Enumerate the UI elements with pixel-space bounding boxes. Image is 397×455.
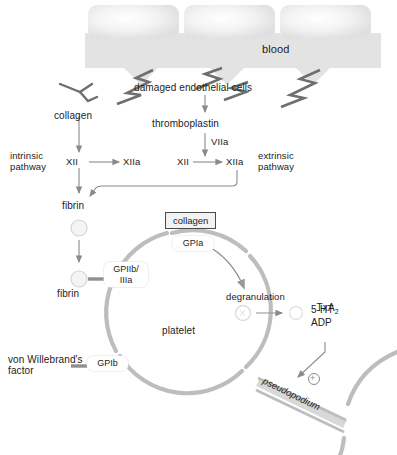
- damaged-endothelial-cells-label: damaged endothelial cells: [134, 82, 252, 93]
- arrow-xiia-to-fibrin-extrinsic: [90, 170, 237, 196]
- receptor-gpiibiiia[interactable]: GPIIb/ IIIa: [104, 262, 148, 287]
- intrinsic-pathway-label: intrinsic pathway: [10, 150, 46, 172]
- factor-xiia-extrinsic: XIIa: [226, 156, 243, 167]
- extrinsic-pathway-label: extrinsic pathway: [258, 150, 294, 172]
- plus-sign-label: +: [310, 373, 315, 384]
- fibrin-monomer-circle: [71, 220, 87, 236]
- fibrin-bound-circle: [71, 271, 87, 287]
- arrow-gpia-to-degranulation: [204, 244, 244, 288]
- fibrin-label-top: fibrin: [62, 200, 84, 211]
- granule-core-icon: [240, 310, 245, 316]
- arrow-mediators-to-pseudopodium: [298, 342, 325, 377]
- endothelial-cells-group: [88, 5, 371, 39]
- fibrin-label-bound: fibrin: [57, 288, 79, 299]
- factor-xii-intrinsic: XII: [66, 156, 78, 167]
- platelet-label: platelet: [162, 325, 195, 336]
- collagen-box: collagen: [165, 212, 216, 229]
- factor-viia-label: VIIa: [211, 136, 228, 147]
- receptor-gpib[interactable]: GPIb: [87, 356, 128, 371]
- blood-vessel-group: [85, 33, 381, 85]
- platelet-membrane: [106, 230, 271, 393]
- thromboplastin-label: thromboplastin: [152, 118, 219, 129]
- collagen-fiber-icon: [60, 84, 97, 101]
- degranulation-label: degranulation: [226, 291, 285, 302]
- von-willebrand-factor-label: von Willebrand's factor: [8, 354, 83, 376]
- mediator-adp: ADP: [311, 317, 332, 328]
- blood-label: blood: [262, 44, 289, 55]
- factor-xiia-intrinsic: XIIa: [123, 156, 140, 167]
- mediator-5ht: 5-HT: [311, 304, 334, 315]
- factor-xii-extrinsic: XII: [177, 156, 189, 167]
- released-granule-icon: [290, 307, 303, 320]
- collagen-label: collagen: [54, 110, 92, 121]
- adjacent-platelet-membrane: [340, 352, 397, 455]
- mediator-txa2-subscript: 2: [335, 308, 339, 315]
- diagram-canvas: blood damaged endothelial cells collagen…: [0, 0, 397, 455]
- receptor-gpia[interactable]: GPIa: [172, 236, 214, 251]
